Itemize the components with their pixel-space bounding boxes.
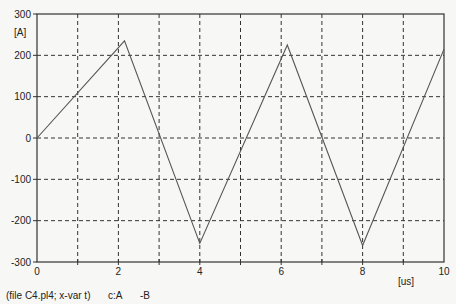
x-axis-unit: [us] (398, 276, 414, 287)
grid-lines (37, 14, 444, 262)
x-tick-label: 4 (197, 266, 203, 277)
y-tick-label: 0 (25, 133, 31, 144)
x-tick-label: 8 (360, 266, 366, 277)
y-tick-label: 200 (14, 50, 31, 61)
x-tick-label: 0 (34, 266, 40, 277)
x-tick-label: 6 (278, 266, 284, 277)
y-tick-label: -200 (11, 215, 31, 226)
legend-c-a: c:A (108, 290, 123, 301)
x-tick-label: 10 (438, 266, 450, 277)
y-tick-label: 100 (14, 91, 31, 102)
x-tick-label: 2 (116, 266, 122, 277)
legend-b: -B (140, 290, 150, 301)
y-axis-unit: [A] (14, 27, 26, 38)
y-tick-label: -100 (11, 174, 31, 185)
chart: 3002001000-100-200-3000246810 [A] [us] (… (0, 0, 456, 304)
footer-file-label: (file C4.pl4; x-var t) (6, 290, 90, 301)
axis-ticks: 3002001000-100-200-3000246810 (11, 9, 450, 278)
y-tick-label: -300 (11, 257, 31, 268)
y-tick-label: 300 (14, 9, 31, 20)
